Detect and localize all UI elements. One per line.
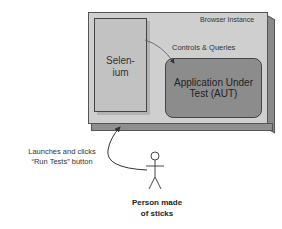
connector-lines (0, 0, 282, 229)
launch-arrow (108, 127, 147, 170)
stick-figure-icon (146, 152, 164, 189)
launch-label: Launches and clicks“Run Tests” button (14, 147, 110, 167)
person-label: Person madeof sticks (122, 197, 192, 219)
controls-arrow (145, 40, 174, 63)
